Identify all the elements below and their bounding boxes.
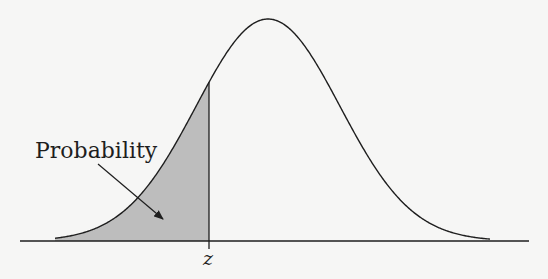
z-label: z — [202, 247, 214, 269]
probability-label: Probability — [35, 138, 158, 163]
normal-distribution-diagram: Probability z — [0, 0, 548, 279]
bell-curve — [55, 19, 490, 239]
